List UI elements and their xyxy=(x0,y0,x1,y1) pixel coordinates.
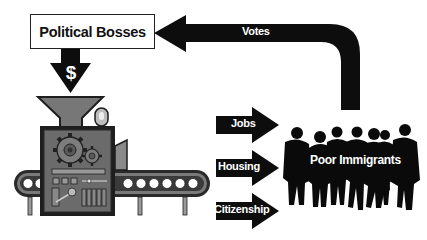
votes-label: Votes xyxy=(242,25,270,37)
jobs-label: Jobs xyxy=(231,117,255,129)
poor-immigrants-label: Poor Immigrants xyxy=(310,153,401,167)
money-label: $ xyxy=(60,62,82,84)
political-bosses-label: Political Bosses xyxy=(39,24,145,40)
gear-icon xyxy=(53,133,87,167)
political-bosses-box: Political Bosses xyxy=(30,14,155,49)
political-machine-icon xyxy=(38,97,127,216)
housing-label: Housing xyxy=(218,160,260,172)
citizenship-label: Citizenship xyxy=(214,203,269,215)
crowd-silhouette-icon xyxy=(283,124,420,210)
